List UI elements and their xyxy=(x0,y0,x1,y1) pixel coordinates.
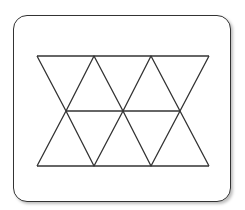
upper-zigzag xyxy=(37,56,209,111)
triangle-grid-diagram xyxy=(0,0,245,210)
lower-zigzag xyxy=(37,111,209,166)
